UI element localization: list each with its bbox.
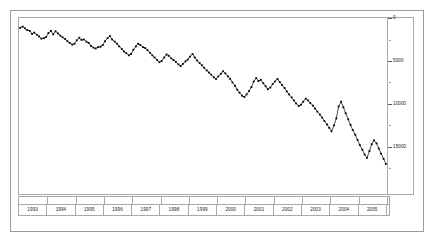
x-axis-tick-row [18,196,390,204]
y-axis-tick-label: 0 [393,15,396,20]
x-axis-year-cell: 2000 [217,205,245,215]
x-axis-year-cell: 2001 [245,205,273,215]
y-axis-tick [388,147,392,148]
y-axis-tick-label: 5000 [393,58,404,63]
y-axis-minor-tick [389,40,391,41]
y-axis-tick [388,18,392,19]
x-axis-year-band: 1993199419951996199719981999200020012002… [18,196,390,216]
x-axis-year-cell: 1999 [189,205,217,215]
series-line [19,18,387,194]
x-axis-year-cell: 1994 [47,205,75,215]
x-axis-year-cell-partial [387,205,389,215]
x-axis-year-cell: 2002 [274,205,302,215]
y-tick-label-1: 5000 [0,0,1,1]
x-axis-year-cells: 1993199419951996199719981999200020012002… [18,204,390,216]
plot-frame [18,17,388,195]
x-axis-year-cell: 1997 [132,205,160,215]
plot-area [19,18,387,194]
y-tick-label-0: 0 [0,0,1,1]
y-axis-minor-tick [389,168,391,169]
y-axis-minor-tick [389,82,391,83]
x-axis-year-cell: 1995 [76,205,104,215]
x-axis-year-cell: 2003 [302,205,330,215]
y-axis-tick [388,104,392,105]
y-tick-label-3: 15000 [0,0,1,1]
chart-screenshot: 050001000015000 199319941995199619971998… [0,0,434,246]
y-axis-tick-label: 15000 [393,144,406,149]
x-axis-year-cell: 1996 [104,205,132,215]
y-axis-tick [388,61,392,62]
y-tick-label-2: 10000 [0,0,1,1]
x-axis-year-cell: 1993 [19,205,47,215]
y-axis-minor-tick [389,125,391,126]
x-axis-year-cell: 2005 [359,205,387,215]
x-axis-year-cell: 2004 [330,205,358,215]
x-axis-year-cell: 1998 [160,205,188,215]
y-axis-tick-label: 10000 [393,101,406,106]
